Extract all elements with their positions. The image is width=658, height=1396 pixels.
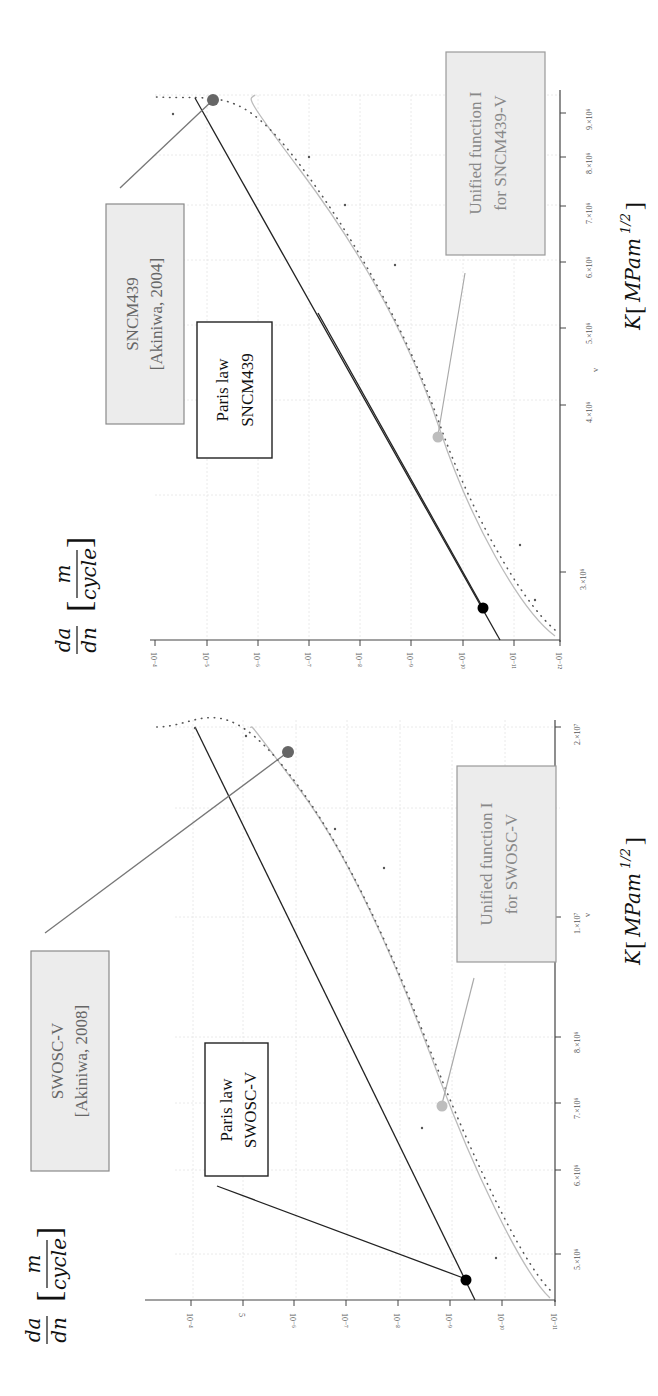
axis-v-label: v (591, 368, 600, 372)
x-tick: 9.×10⁶ (585, 108, 594, 130)
box-text-line2: [Akiniwa, 2008] (72, 1005, 91, 1117)
ylabel-m: m (21, 1255, 45, 1274)
box-text-line2: for SNCM439-V (491, 94, 510, 210)
chart-swosc-v: 10⁻⁴ 5 10⁻⁶ 10⁻⁷ 10⁻⁸ 10⁻⁹ 10⁻¹⁰ 10⁻¹¹ 5… (31, 718, 592, 1331)
bracket-close: ] (60, 537, 97, 548)
annotation-box-paris-swosc-v: Paris law SWOSC-V (205, 1043, 268, 1176)
box-text-line1: Unified function I (466, 91, 485, 214)
ylabel-dn: dn (77, 627, 101, 653)
ylabel-dn: dn (47, 1317, 71, 1343)
y-tick: 10⁻⁶ (252, 652, 261, 667)
figure-canvas: 10⁻⁴ 10⁻⁵ 10⁻⁶ 10⁻⁷ 10⁻⁸ 10⁻⁹ 10⁻¹⁰ 10⁻¹… (0, 0, 658, 1396)
y-tick: 10⁻⁹ (405, 652, 414, 667)
y-tick: 10⁻¹¹ (549, 1313, 558, 1330)
bracket-open: [ (30, 1291, 67, 1302)
ylabel-cycle: cycle (47, 1238, 71, 1290)
bracket-open: [ (621, 306, 647, 314)
axis-v-label: v (583, 913, 592, 917)
marker-paris-sncm439 (478, 603, 489, 614)
box-text-line1: SNCM439 (123, 277, 142, 351)
y-tick: 10⁻⁸ (392, 1313, 401, 1328)
paris-line-swosc-v (195, 727, 475, 1300)
bracket-close: ] (30, 1227, 67, 1238)
box-text-line1: Paris law (217, 1078, 236, 1142)
ylabel-cycle: cycle (77, 548, 101, 600)
x-tick: 6.×10⁶ (573, 1164, 582, 1186)
y-tick: 5 (237, 1313, 246, 1317)
y-tick: 10⁻⁵ (201, 652, 210, 667)
x-axis-title-top: K [ MPam 1/2 ] (618, 202, 647, 331)
y-axis-title-bottom: da dn [ m cycle ] (21, 1227, 71, 1344)
marker-sncm439-data (207, 94, 219, 106)
box-text-line1: Unified function I (477, 802, 496, 925)
box-text-line1: SWOSC-V (48, 1022, 67, 1099)
y-tick: 10⁻⁷ (303, 652, 312, 667)
marker-unified-sncm439 (433, 432, 444, 443)
x-tick: 1.×10⁷ (573, 912, 582, 934)
box-text-line2: SWOSC-V (241, 1071, 260, 1148)
x-axis-swosc-v: 5.×10⁶ 6.×10⁶ 7.×10⁶ 8.×10⁶ 1.×10⁷ 2.×10… (555, 723, 592, 1270)
ylabel-da: da (21, 1318, 45, 1343)
box-text-line2: SNCM439 (238, 353, 257, 427)
x-tick: 5.×10⁶ (585, 322, 594, 344)
ylabel-m: m (51, 565, 75, 584)
xlabel-exponent: 1/2 (618, 848, 633, 869)
box-text-line2: for SWOSC-V (502, 813, 521, 914)
x-tick: 6.×10⁶ (585, 256, 594, 278)
annotation-box-sncm439-source: SNCM439 [Akiniwa, 2004] (106, 204, 184, 424)
y-tick: 10⁻¹⁰ (457, 652, 466, 669)
annotation-box-unified-swosc-v: Unified function I for SWOSC-V (457, 766, 556, 962)
xlabel-k: K (621, 314, 645, 331)
xlabel-exponent: 1/2 (618, 213, 633, 234)
box-text-line1: Paris law (213, 358, 232, 422)
x-tick: 2.×10⁷ (573, 723, 582, 745)
xlabel-unit: MPam (621, 873, 645, 938)
y-tick: 10⁻⁴ (149, 652, 158, 667)
x-tick: 4.×10⁶ (585, 401, 594, 423)
marker-unified-swosc-v (437, 1101, 448, 1112)
x-tick: 7.×10⁶ (585, 202, 594, 224)
bracket-close: ] (621, 837, 647, 845)
x-tick: 8.×10⁶ (573, 1031, 582, 1053)
y-tick: 10⁻⁸ (354, 652, 363, 667)
annotation-box-unified-sncm439: Unified function I for SNCM439-V (446, 52, 545, 255)
box-text-line2: [Akiniwa, 2004] (147, 258, 166, 370)
annotation-box-swosc-v-source: SWOSC-V [Akiniwa, 2008] (31, 951, 109, 1171)
bracket-open: [ (621, 941, 647, 949)
x-tick: 3.×10⁶ (579, 568, 588, 590)
y-tick: 10⁻¹⁰ (496, 1313, 505, 1330)
y-tick: 10⁻⁷ (340, 1313, 349, 1328)
marker-swosc-v-data (282, 746, 294, 758)
bracket-open: [ (60, 601, 97, 612)
chart-sncm439: 10⁻⁴ 10⁻⁵ 10⁻⁶ 10⁻⁷ 10⁻⁸ 10⁻⁹ 10⁻¹⁰ 10⁻¹… (106, 52, 600, 669)
y-tick: 10⁻¹¹ (508, 652, 517, 669)
x-tick: 7.×10⁶ (573, 1097, 582, 1119)
xlabel-k: K (621, 949, 645, 966)
x-axis-title-bottom: K [ MPam 1/2 ] (618, 837, 647, 966)
y-tick: 10⁻¹² (554, 652, 563, 669)
y-tick: 10⁻⁴ (185, 1313, 194, 1328)
y-axis-title-top: da dn [ m cycle ] (51, 537, 101, 654)
annotation-box-paris-sncm439: Paris law SNCM439 (197, 322, 272, 458)
x-axis-sncm439: 3.×10⁶ 4.×10⁶ 5.×10⁶ 6.×10⁶ 7.×10⁶ 8.×10… (560, 108, 600, 590)
marker-paris-swosc-v (461, 1275, 472, 1286)
bracket-close: ] (621, 202, 647, 210)
ylabel-da: da (51, 628, 75, 653)
y-tick: 10⁻⁹ (444, 1313, 453, 1328)
xlabel-unit: MPam (621, 238, 645, 303)
y-tick: 10⁻⁶ (288, 1313, 297, 1328)
x-tick: 8.×10⁶ (585, 152, 594, 174)
x-tick: 5.×10⁶ (573, 1248, 582, 1270)
